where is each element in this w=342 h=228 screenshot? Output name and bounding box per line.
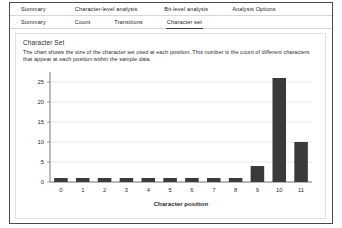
tab-summary-primary[interactable]: Summary: [20, 3, 47, 16]
bar: [76, 178, 90, 182]
tab-transitions[interactable]: Transitions: [113, 16, 143, 29]
tab-count[interactable]: Count: [74, 16, 92, 29]
svg-text:6: 6: [190, 187, 193, 193]
svg-text:10: 10: [38, 139, 44, 145]
bar: [185, 178, 199, 182]
character-set-panel: Character Set The chart shows the size o…: [15, 33, 326, 219]
bar: [229, 178, 243, 182]
svg-text:8: 8: [234, 187, 237, 193]
bar: [98, 178, 112, 182]
tab-analysis-options[interactable]: Analysis Options: [231, 3, 277, 16]
tab-summary-secondary[interactable]: Summary: [20, 16, 47, 29]
character-set-bar-chart: 0510152025 01234567891011 Character posi…: [16, 66, 327, 218]
svg-text:4: 4: [147, 187, 151, 193]
svg-text:9: 9: [256, 187, 259, 193]
svg-text:1: 1: [81, 187, 84, 193]
svg-text:5: 5: [168, 187, 171, 193]
svg-text:3: 3: [125, 187, 128, 193]
panel-title: Character Set: [23, 39, 64, 46]
bar: [207, 178, 221, 182]
primary-tab-bar: Summary Character-level analysis Bit-lev…: [10, 3, 332, 16]
x-axis-tick-labels: 01234567891011: [59, 187, 304, 193]
svg-text:0: 0: [59, 187, 62, 193]
svg-text:5: 5: [41, 159, 44, 165]
tab-bit-level-analysis[interactable]: Bit-level analysis: [163, 3, 209, 16]
svg-text:2: 2: [103, 187, 106, 193]
secondary-tab-bar: Summary Count Transitions Character set: [10, 16, 332, 29]
svg-text:11: 11: [298, 187, 304, 193]
bar: [272, 78, 286, 182]
character-set-chart: 0510152025 01234567891011 Character posi…: [16, 66, 327, 218]
svg-text:7: 7: [212, 187, 215, 193]
tab-character-set[interactable]: Character set: [166, 16, 203, 29]
bar: [141, 178, 155, 182]
bar: [251, 166, 265, 182]
bar: [54, 178, 68, 182]
bar: [163, 178, 177, 182]
svg-text:15: 15: [38, 119, 44, 125]
panel-description: The chart shows the size of the characte…: [23, 49, 319, 64]
analysis-window: Summary Character-level analysis Bit-lev…: [9, 2, 333, 224]
svg-text:20: 20: [38, 99, 44, 105]
bar: [294, 142, 308, 182]
y-axis-tick-labels: 0510152025: [38, 79, 50, 185]
svg-text:10: 10: [276, 187, 282, 193]
svg-text:25: 25: [38, 79, 44, 85]
x-axis-title: Character position: [154, 200, 209, 207]
tab-character-level-analysis[interactable]: Character-level analysis: [74, 3, 139, 16]
bar: [120, 178, 134, 182]
bar-series: [54, 78, 308, 182]
svg-text:0: 0: [41, 179, 44, 185]
